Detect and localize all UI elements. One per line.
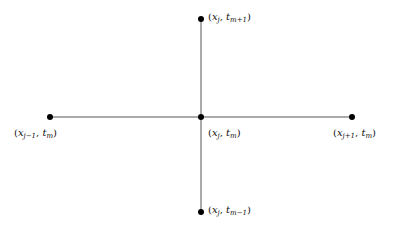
label-center: (xj, tm) xyxy=(208,127,241,140)
node-left xyxy=(47,114,53,120)
node-right xyxy=(349,114,355,120)
node-top xyxy=(198,16,204,22)
node-bottom xyxy=(198,209,204,215)
label-right: (xj+1, tm) xyxy=(333,127,376,140)
label-left: (xj−1, tm) xyxy=(14,127,57,140)
label-bottom: (xj, tm−1) xyxy=(208,204,251,217)
label-top: (xj, tm+1) xyxy=(208,11,251,24)
node-center xyxy=(198,114,204,120)
stencil-diagram xyxy=(0,0,398,230)
